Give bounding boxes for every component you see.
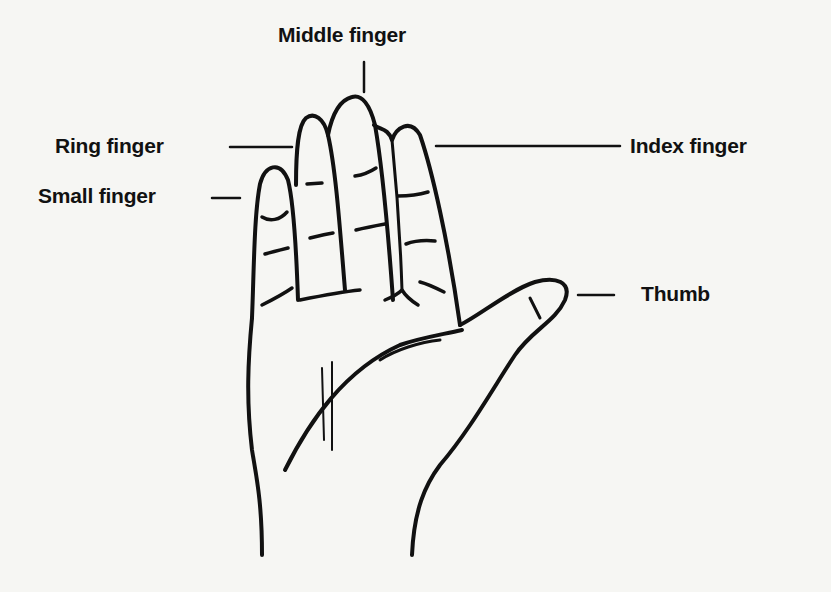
thenar-crease: [285, 330, 462, 470]
label-ring-finger: Ring finger: [55, 134, 164, 158]
ring-finger-outline: [296, 116, 345, 290]
hand-diagram: Middle finger Ring finger Index finger S…: [0, 0, 831, 592]
palm-left-edge: [248, 318, 262, 555]
label-index-finger: Index finger: [630, 134, 747, 158]
label-small-finger: Small finger: [38, 184, 156, 208]
label-middle-finger: Middle finger: [278, 23, 406, 47]
small-finger-outline: [252, 167, 298, 318]
label-thumb: Thumb: [641, 282, 710, 306]
thumb-outline: [412, 280, 567, 555]
